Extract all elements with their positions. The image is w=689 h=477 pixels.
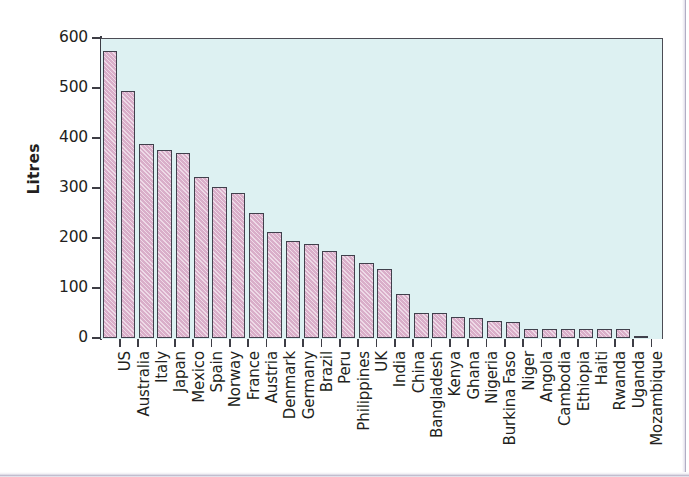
y-axis-tick <box>92 187 100 189</box>
x-axis-tick-label: Brazil <box>318 351 336 392</box>
y-axis-tick-label: 400 <box>30 128 88 146</box>
x-axis-tick-label: Mexico <box>190 351 208 403</box>
x-axis-tick-label: Nigeria <box>483 351 501 404</box>
x-axis-tick <box>431 339 433 347</box>
x-axis-tick <box>247 339 249 347</box>
x-axis-tick <box>632 339 634 347</box>
x-axis-tick-label: Italy <box>153 351 171 383</box>
x-axis-tick <box>651 339 653 347</box>
x-axis-tick <box>412 339 414 347</box>
x-axis-tick <box>577 339 579 347</box>
bar <box>634 336 648 339</box>
x-axis-tick <box>504 339 506 347</box>
x-axis-tick <box>376 339 378 347</box>
y-axis-tick-label: 600 <box>30 28 88 46</box>
bar <box>194 177 208 338</box>
x-axis-tick-label: China <box>410 351 428 393</box>
x-axis-tick <box>339 339 341 347</box>
x-axis-tick-label: Philippines <box>355 351 373 431</box>
x-axis-ticks <box>101 339 666 349</box>
x-axis-tick <box>449 339 451 347</box>
x-axis-tick-label: Ethiopia <box>575 351 593 411</box>
bar <box>121 91 135 339</box>
y-axis-tick-label-text: 200 <box>36 228 88 246</box>
x-axis-tick <box>302 339 304 347</box>
bar <box>176 153 190 338</box>
y-axis-tick <box>92 137 100 139</box>
x-axis-tick-label: Austria <box>263 351 281 403</box>
x-axis-tick <box>614 339 616 347</box>
y-axis-tick <box>92 237 100 239</box>
x-axis-tick-label: Cambodia <box>556 351 574 426</box>
bar <box>487 321 501 338</box>
x-axis-tick <box>211 339 213 347</box>
y-axis-tick-label: 500 <box>30 78 88 96</box>
x-axis-tick-label: Niger <box>520 351 538 391</box>
bar <box>286 241 300 338</box>
x-axis-tick-label: Germany <box>300 351 318 419</box>
x-axis-tick <box>321 339 323 347</box>
x-axis-tick-label: Peru <box>336 351 354 384</box>
bar <box>542 329 556 338</box>
bar <box>579 329 593 338</box>
x-axis-tick <box>357 339 359 347</box>
bar <box>157 150 171 339</box>
x-axis-tick <box>467 339 469 347</box>
y-axis-tick <box>92 37 100 39</box>
x-axis-tick <box>394 339 396 347</box>
x-axis-tick <box>522 339 524 347</box>
x-axis-tick-label: Haiti <box>593 351 611 385</box>
bar <box>341 255 355 338</box>
bar <box>359 263 373 339</box>
x-axis-tick-label: UK <box>373 351 391 372</box>
x-axis-tick <box>559 339 561 347</box>
bar <box>304 244 318 339</box>
bar <box>212 187 226 339</box>
x-axis-tick-label: Ghana <box>465 351 483 400</box>
x-axis-tick <box>596 339 598 347</box>
x-axis-tick-label: Uganda <box>630 351 648 408</box>
bar <box>616 329 630 338</box>
x-axis-tick-label: Norway <box>226 351 244 407</box>
bar <box>524 329 538 338</box>
x-axis-tick <box>541 339 543 347</box>
bar <box>231 193 245 338</box>
x-axis-tick-label: Burkina Faso <box>501 351 519 446</box>
x-axis-tick-label: Rwanda <box>611 351 629 411</box>
x-axis-tick-label: Angola <box>538 351 556 402</box>
bar <box>322 251 336 339</box>
y-axis-tick-label-text: 0 <box>36 328 88 346</box>
x-axis-tick <box>266 339 268 347</box>
x-axis-tick-label: Bangladesh <box>428 351 446 438</box>
bar <box>267 232 281 338</box>
y-axis-tick-label-text: 600 <box>36 28 88 46</box>
y-axis-tick-label-text: 400 <box>36 128 88 146</box>
y-axis-tick-label-text: 300 <box>36 178 88 196</box>
x-axis-tick-label: India <box>391 351 409 387</box>
y-axis-tick <box>92 87 100 89</box>
bar <box>414 313 428 339</box>
y-axis-tick-label: 200 <box>30 228 88 246</box>
bar-series <box>101 38 662 338</box>
x-axis-tick-label: Denmark <box>281 351 299 419</box>
x-axis-tick-label: France <box>245 351 263 400</box>
bar <box>561 329 575 338</box>
x-axis-tick-label: Mozambique <box>648 351 666 446</box>
bar <box>377 269 391 338</box>
x-axis-tick <box>119 339 121 347</box>
page-edge-bottom <box>0 472 689 477</box>
x-axis-tick <box>229 339 231 347</box>
bar <box>139 144 153 339</box>
y-axis-tick <box>92 287 100 289</box>
y-axis-tick-label-text: 100 <box>36 278 88 296</box>
bar <box>469 318 483 338</box>
y-axis-tick-label-text: 500 <box>36 78 88 96</box>
x-axis-tick-label: US <box>116 351 134 371</box>
scanned-page: Litres 0100200300400500600 USAustraliaIt… <box>0 0 689 477</box>
x-axis-tick <box>174 339 176 347</box>
bar <box>451 317 465 338</box>
y-axis-tick <box>92 337 100 339</box>
bar <box>103 51 117 339</box>
bar <box>597 329 611 338</box>
x-axis-tick <box>486 339 488 347</box>
